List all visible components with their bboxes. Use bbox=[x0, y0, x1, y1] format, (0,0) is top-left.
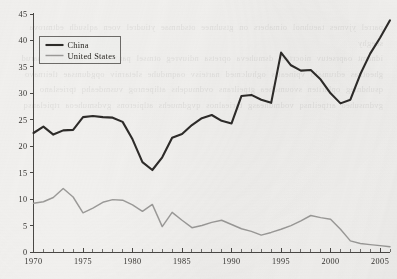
y-tick-label-45: 45 bbox=[18, 10, 27, 19]
y-axis-tick-labels: 051015202530354045 bbox=[18, 10, 27, 257]
y-tick-label-35: 35 bbox=[18, 63, 27, 72]
x-tick-label-1990: 1990 bbox=[222, 257, 240, 266]
chart-legend: China United States bbox=[40, 36, 121, 63]
y-tick-label-15: 15 bbox=[18, 169, 27, 178]
legend-label-china: China bbox=[68, 41, 89, 50]
x-axis-major-ticks bbox=[34, 248, 381, 252]
y-tick-label-5: 5 bbox=[23, 222, 28, 231]
series-line-united-states bbox=[34, 189, 391, 247]
y-tick-label-30: 30 bbox=[18, 89, 27, 98]
y-tick-label-25: 25 bbox=[18, 116, 27, 125]
x-tick-label-1995: 1995 bbox=[272, 257, 290, 266]
x-tick-label-1975: 1975 bbox=[74, 257, 92, 266]
y-tick-label-0: 0 bbox=[23, 248, 28, 257]
y-tick-label-20: 20 bbox=[18, 142, 27, 151]
line-chart: 051015202530354045 197019751980198519901… bbox=[0, 0, 397, 279]
legend-label-united-states: United States bbox=[68, 52, 116, 61]
x-tick-label-1970: 1970 bbox=[24, 257, 42, 266]
x-tick-label-1980: 1980 bbox=[123, 257, 141, 266]
x-axis-tick-labels: 19701975198019851990199520002005 bbox=[24, 257, 389, 266]
x-tick-label-2000: 2000 bbox=[321, 257, 339, 266]
x-tick-label-2005: 2005 bbox=[371, 257, 389, 266]
y-tick-label-10: 10 bbox=[18, 195, 27, 204]
x-tick-label-1985: 1985 bbox=[173, 257, 191, 266]
chart-canvas: 051015202530354045 197019751980198519901… bbox=[0, 0, 397, 279]
y-tick-label-40: 40 bbox=[18, 36, 27, 45]
